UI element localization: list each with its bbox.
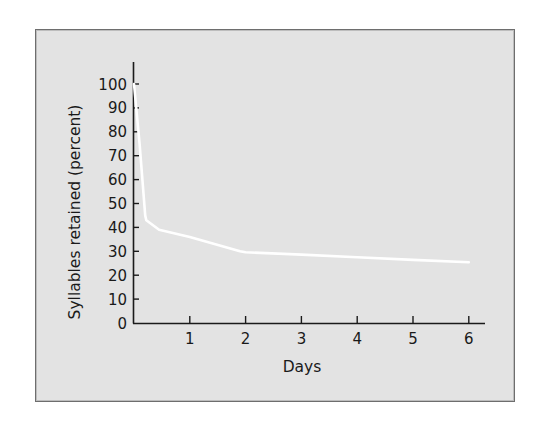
y-tick-label: 10: [108, 291, 127, 309]
x-axis-title: Days: [283, 358, 322, 376]
x-axis-ticks: 123456: [185, 316, 474, 348]
axes: [133, 62, 485, 324]
x-tick-label: 1: [185, 330, 195, 348]
y-tick-label: 0: [117, 315, 127, 333]
y-tick-label: 70: [108, 147, 127, 165]
y-tick-label: 50: [108, 195, 127, 213]
y-tick-label: 60: [108, 171, 127, 189]
x-tick-label: 5: [408, 330, 418, 348]
y-tick-label: 20: [108, 267, 127, 285]
y-tick-label: 100: [98, 76, 127, 94]
y-tick-label: 90: [108, 99, 127, 117]
y-axis-title: Syllables retained (percent): [66, 105, 84, 320]
retention-curve: [134, 84, 469, 262]
x-tick-label: 2: [241, 330, 251, 348]
y-tick-label: 40: [108, 219, 127, 237]
x-tick-label: 6: [464, 330, 474, 348]
y-tick-label: 30: [108, 243, 127, 261]
x-tick-label: 3: [297, 330, 307, 348]
y-tick-label: 80: [108, 123, 127, 141]
x-tick-label: 4: [352, 330, 362, 348]
